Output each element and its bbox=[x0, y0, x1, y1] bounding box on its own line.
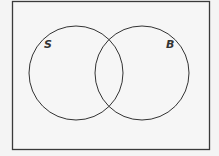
venn-diagram: S B bbox=[0, 0, 219, 156]
universal-set-rectangle bbox=[13, 2, 210, 150]
set-s-label: S bbox=[44, 38, 52, 51]
set-b-label: B bbox=[166, 38, 174, 51]
